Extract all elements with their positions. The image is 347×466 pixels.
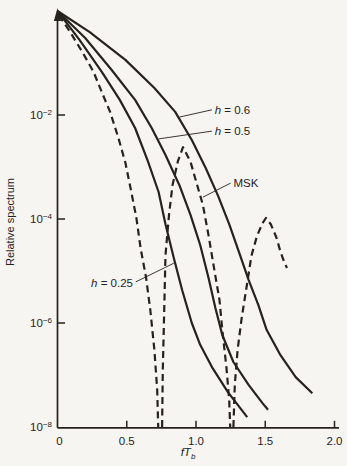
curve-msk <box>59 15 287 427</box>
pointer-line-h-0-6 <box>179 110 212 117</box>
annotation-label-h-0-6: h = 0.6 <box>215 104 251 116</box>
x-tick-label: 0 <box>56 435 62 447</box>
y-tick-label: 10−8 <box>30 420 52 434</box>
x-axis-title: fTb <box>181 446 196 461</box>
curve-h-0-25 <box>58 11 248 417</box>
y-axis-title: Relative spectrum <box>4 178 16 266</box>
x-tick-label: 1.5 <box>257 435 273 447</box>
annotation-label-msk: MSK <box>233 177 258 189</box>
figure-page: 00.51.01.52.010−210−410−610−8Relative sp… <box>0 0 347 466</box>
x-tick-label: 0.5 <box>119 435 135 447</box>
curve-segment <box>233 218 287 427</box>
axes <box>54 8 339 428</box>
annotation-label-h-0-5: h = 0.5 <box>215 125 251 137</box>
x-tick-label: 2.0 <box>327 435 343 447</box>
spectrum-chart: 00.51.01.52.010−210−410−610−8Relative sp… <box>0 0 347 466</box>
pointer-line-h-0-5 <box>159 131 212 139</box>
y-tick-label: 10−2 <box>30 108 52 122</box>
y-tick-label: 10−6 <box>30 316 52 330</box>
curve-segment <box>58 11 248 417</box>
x-ticks: 00.51.01.52.0 <box>56 421 342 447</box>
curve-segment <box>162 147 230 427</box>
y-ticks: 10−210−410−610−8 <box>30 108 65 434</box>
y-tick-label: 10−4 <box>30 212 52 226</box>
annotation-label-h-0-25: h = 0.25 <box>91 277 133 289</box>
pointer-line-h-0-25 <box>136 263 174 282</box>
